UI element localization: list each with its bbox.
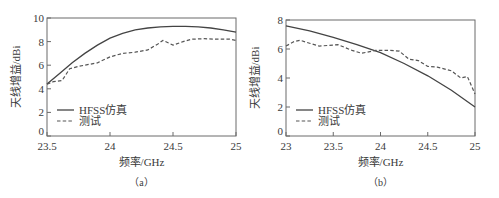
y-tick-label: 6 (278, 43, 284, 55)
legend-label: 测试 (318, 115, 340, 127)
series-measured-line (47, 39, 236, 84)
plot-area-frame (47, 18, 236, 136)
series-simulated-line (47, 26, 236, 84)
legend: HFSS仿真测试 (57, 103, 127, 127)
y-tick-label: 8 (39, 36, 45, 48)
chart-panel-a: 024681023.52424.525频率/GHz天线增益/dBi（a）HFSS… (9, 12, 242, 188)
y-tick-label: 4 (39, 83, 45, 95)
series-simulated-line (286, 26, 475, 107)
plot-area-frame (286, 20, 475, 136)
y-tick-label: 6 (39, 59, 45, 71)
x-tick-label: 24.5 (163, 140, 183, 152)
panel-label: （b） (368, 177, 393, 188)
x-tick-label: 24.5 (418, 140, 438, 152)
y-tick-label: 2 (39, 106, 45, 118)
x-tick-label: 23.5 (37, 140, 57, 152)
x-tick-label: 24 (105, 140, 117, 152)
y-axis-label: 天线增益/dBi (9, 46, 22, 109)
legend-label: 测试 (79, 115, 101, 127)
x-tick-label: 25 (231, 140, 243, 152)
y-tick-label: 0 (278, 125, 284, 137)
y-tick-label: 4 (278, 72, 284, 84)
y-axis-label: 天线增益/dBi (248, 47, 261, 110)
figure: 024681023.52424.525频率/GHz天线增益/dBi（a）HFSS… (0, 0, 499, 198)
x-tick-label: 23.5 (324, 140, 344, 152)
series-measured-line (286, 40, 475, 94)
chart-panel-b: 024682323.52424.525频率/GHz天线增益/dBi（b）HFSS… (248, 14, 481, 188)
y-tick-label: 8 (278, 14, 284, 26)
y-tick-label: 2 (278, 101, 284, 113)
y-tick-label: 10 (33, 12, 45, 24)
panel-label: （a） (129, 177, 153, 188)
legend: HFSS仿真测试 (296, 103, 366, 127)
x-tick-label: 25 (470, 140, 482, 152)
x-axis-label: 频率/GHz (119, 155, 165, 168)
x-tick-label: 23 (281, 140, 293, 152)
y-tick-label: 0 (39, 125, 45, 137)
x-axis-label: 频率/GHz (358, 155, 404, 168)
x-tick-label: 24 (375, 140, 387, 152)
